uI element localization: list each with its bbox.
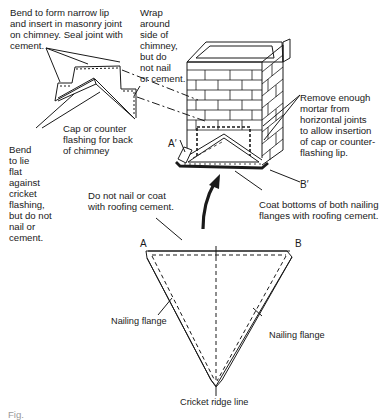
point-b-prime: B′ — [300, 179, 309, 190]
figure-caption: Fig. — [8, 409, 24, 420]
chimney — [187, 39, 290, 165]
label-coat-bottoms: Coat bottoms of both nailing flanges wit… — [259, 199, 378, 221]
label-bend-lip: Bend to form narrow lip and insert in ma… — [10, 7, 123, 51]
point-a: A — [140, 238, 147, 249]
label-nailing-flange-left: Nailing flange — [111, 316, 167, 327]
label-remove-mortar: Remove enough mortar from horizontal joi… — [300, 92, 375, 158]
cricket-installed — [176, 134, 268, 168]
label-cricket-ridge-line: Cricket ridge line — [180, 397, 248, 408]
label-wrap-side: Wrap around side of chimney, but do not … — [140, 7, 185, 84]
label-do-not-nail: Do not nail or coat with roofing cement. — [88, 190, 174, 212]
cap-flashing-piece — [55, 66, 136, 119]
label-cap-counter-flashing: Cap or counter flashing for back of chim… — [63, 123, 133, 156]
point-b: B — [295, 238, 302, 249]
label-bend-flat: Bend to lie flat against cricket flashin… — [9, 144, 52, 243]
cricket-flashing-unfolded — [146, 246, 292, 396]
point-a-prime: A′ — [168, 138, 177, 149]
label-nailing-flange-right: Nailing flange — [269, 330, 325, 341]
